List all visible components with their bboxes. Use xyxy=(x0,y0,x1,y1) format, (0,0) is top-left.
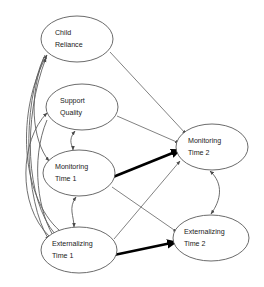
edge-group-left-curves xyxy=(26,55,60,240)
edge-group-directed xyxy=(110,52,186,239)
node-monitoring-time-2[interactable]: Monitoring Time 2 xyxy=(176,124,248,170)
node-label-externalizing-time-2-line2: Time 2 xyxy=(184,240,205,248)
edge-group-bold xyxy=(113,150,180,255)
node-ellipse-child-reliance xyxy=(41,16,113,62)
edge-support-quality-to-monitoring-time-2 xyxy=(117,116,179,143)
diagram-canvas: Child Reliance Support Quality Monitorin… xyxy=(0,0,264,287)
node-label-support-quality-line2: Quality xyxy=(60,109,83,117)
node-ellipse-support-quality xyxy=(46,84,118,130)
node-label-externalizing-time-1-line2: Time 1 xyxy=(52,252,73,260)
node-monitoring-time-1[interactable]: Monitoring Time 1 xyxy=(43,150,115,196)
node-support-quality[interactable]: Support Quality xyxy=(46,84,118,130)
edge-monitoring-time-1-to-externalizing-time-2 xyxy=(112,187,177,232)
edge-externalizing-time-1-to-externalizing-time-2 xyxy=(114,242,176,255)
node-label-child-reliance-line1: Child xyxy=(55,29,71,37)
node-label-child-reliance-line2: Reliance xyxy=(55,41,83,49)
node-label-monitoring-time-1-line2: Time 1 xyxy=(55,175,76,183)
node-ellipse-externalizing-time-2 xyxy=(173,215,249,261)
edge-monitoring-time-2-with-externalizing-time-2 xyxy=(210,171,220,214)
edge-child-reliance-to-monitoring-time-2 xyxy=(110,52,186,134)
edge-externalizing-time-1-to-child-reliance xyxy=(26,55,60,231)
node-externalizing-time-1[interactable]: Externalizing Time 1 xyxy=(41,227,117,273)
edge-support-quality-with-monitoring-time-1 xyxy=(71,131,75,150)
node-ellipse-externalizing-time-1 xyxy=(41,227,117,273)
node-label-monitoring-time-1-line1: Monitoring xyxy=(55,163,88,171)
node-label-support-quality-line1: Support xyxy=(60,97,85,105)
node-label-externalizing-time-1-line1: Externalizing xyxy=(52,240,93,248)
node-ellipse-monitoring-time-2 xyxy=(176,124,248,170)
path-diagram-figure: Child Reliance Support Quality Monitorin… xyxy=(0,0,264,287)
node-externalizing-time-2[interactable]: Externalizing Time 2 xyxy=(173,215,249,261)
node-child-reliance[interactable]: Child Reliance xyxy=(41,16,113,62)
node-label-monitoring-time-2-line1: Monitoring xyxy=(188,137,221,145)
edge-monitoring-time-1-with-externalizing-time-1 xyxy=(72,197,76,227)
node-label-monitoring-time-2-line2: Time 2 xyxy=(188,149,209,157)
node-ellipse-monitoring-time-1 xyxy=(43,150,115,196)
node-label-externalizing-time-2-line1: Externalizing xyxy=(184,228,225,236)
